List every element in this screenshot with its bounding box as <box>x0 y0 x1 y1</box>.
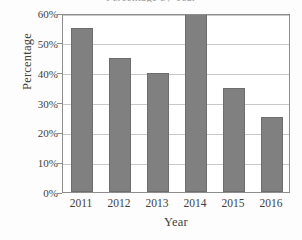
y-axis-tick-mark <box>57 193 62 194</box>
x-axis-tick-label: 2013 <box>138 196 176 210</box>
bar-chart-figure: Percentage by Year Percentage 0%10%20%30… <box>0 0 302 240</box>
y-axis-tick-label: 60% <box>18 9 58 20</box>
plot-area <box>62 14 290 193</box>
y-axis-tick-label: 30% <box>18 98 58 109</box>
y-axis-tick-mark <box>57 163 62 164</box>
bar-2015 <box>223 88 244 192</box>
bar-2012 <box>109 58 130 192</box>
bar-2011 <box>71 28 92 192</box>
bar-2014 <box>185 14 206 192</box>
x-axis-tick-label: 2011 <box>62 196 100 210</box>
bar-2016 <box>261 117 282 192</box>
x-axis-tick-label: 2012 <box>100 196 138 210</box>
y-axis-tick-mark <box>57 103 62 104</box>
chart-title-cutoff: Percentage by Year <box>0 0 302 2</box>
y-axis-tick-labels: 0%10%20%30%40%50%60% <box>18 14 58 193</box>
x-axis-tick-label: 2014 <box>176 196 214 210</box>
y-axis-tick-mark <box>57 43 62 44</box>
y-axis-tick-label: 20% <box>18 128 58 139</box>
x-axis-title: Year <box>62 215 290 230</box>
y-axis-tick-label: 40% <box>18 68 58 79</box>
x-axis-tick-label: 2016 <box>252 196 290 210</box>
x-axis-tick-label: 2015 <box>214 196 252 210</box>
bar-series <box>63 15 289 192</box>
y-axis-tick-label: 10% <box>18 158 58 169</box>
y-axis-tick-mark <box>57 73 62 74</box>
y-axis-tick-mark <box>57 14 62 15</box>
x-axis-tick-labels: 201120122013201420152016 <box>62 196 290 212</box>
y-axis-tick-label: 0% <box>18 188 58 199</box>
y-axis-tick-label: 50% <box>18 38 58 49</box>
y-axis-tick-mark <box>57 133 62 134</box>
bar-2013 <box>147 73 168 192</box>
